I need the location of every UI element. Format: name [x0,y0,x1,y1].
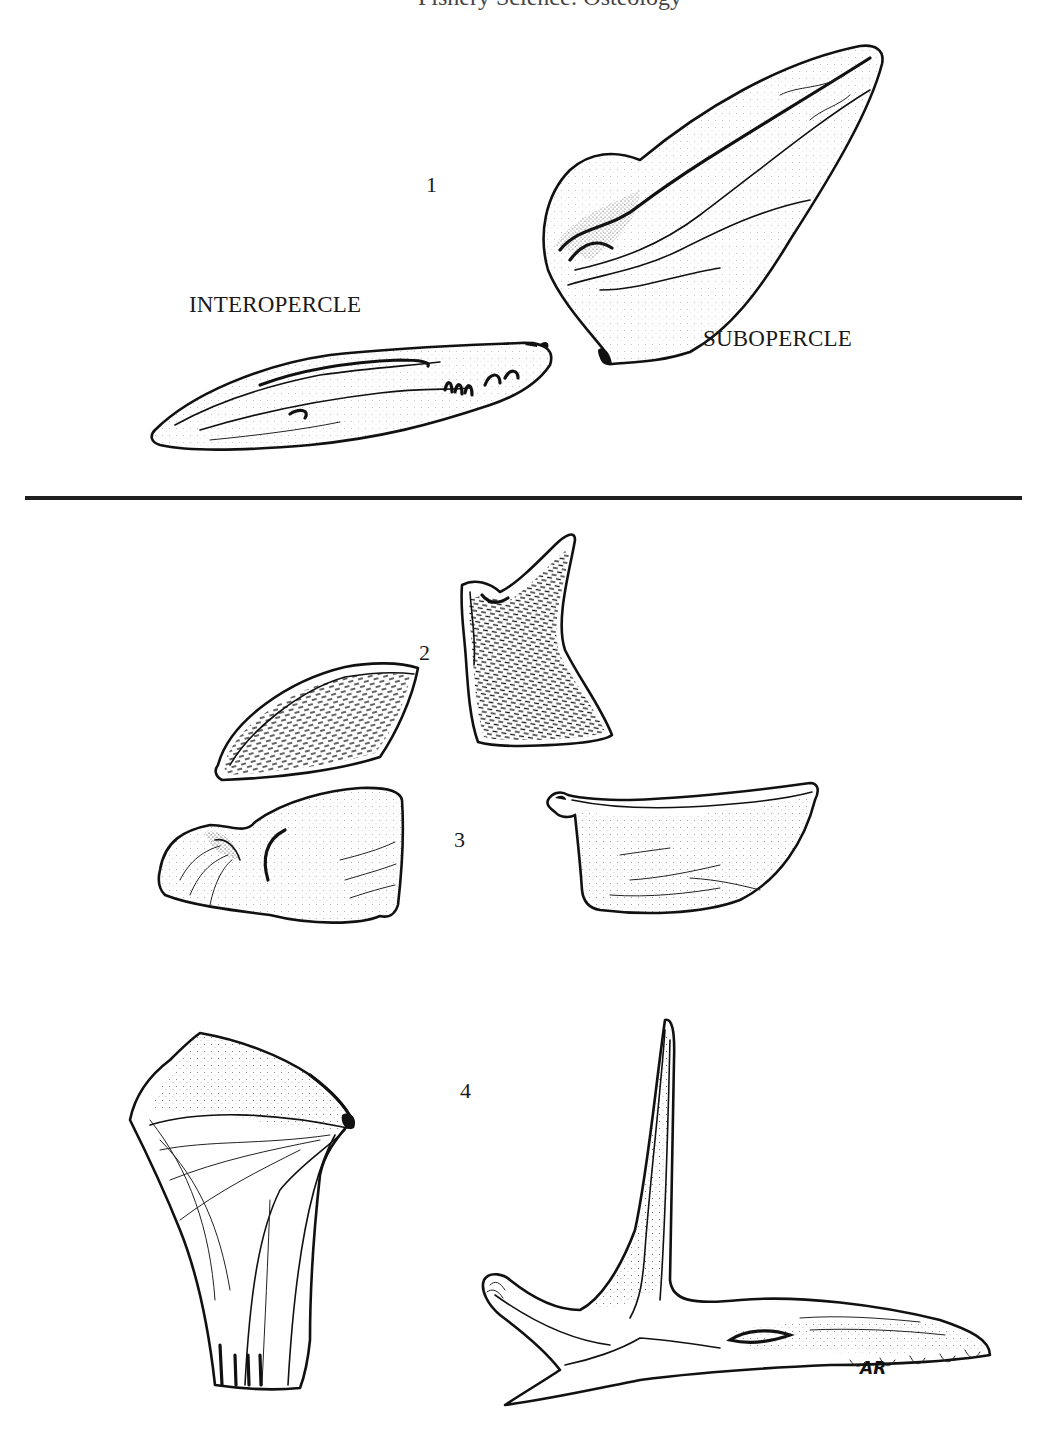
figure-2-right-bone-drawing [461,535,612,746]
figure-number-3: 3 [454,827,465,853]
figure-3-right-bone-drawing [547,783,817,913]
figure-number-2: 2 [419,640,430,666]
section-divider [25,496,1022,500]
figure-number-1: 1 [426,172,437,198]
osteology-plate-illustrations [0,0,1060,1447]
interopercle-drawing [152,342,552,450]
artist-signature: AR [860,1358,886,1378]
subopercle-label: SUBOPERCLE [703,326,852,352]
subopercle-drawing [544,46,883,365]
figure-4-right-bone-drawing [483,1020,990,1405]
figure-3-left-bone-drawing [159,788,403,923]
figure-4-left-bone-drawing [130,1033,355,1389]
interopercle-label: INTEROPERCLE [189,292,361,318]
figure-2-left-bone-drawing [216,663,418,780]
figure-number-4: 4 [460,1078,471,1104]
